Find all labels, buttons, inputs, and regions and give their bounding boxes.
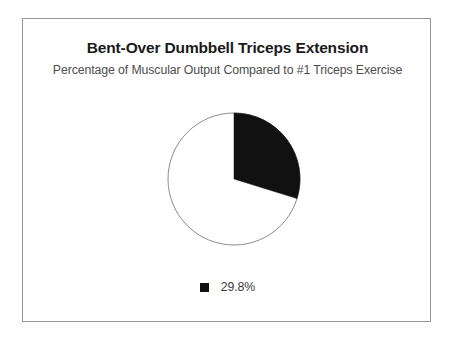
legend: 29.8% [23, 281, 432, 293]
plot-area: 29.8% [23, 19, 432, 323]
pie-svg [167, 112, 301, 246]
chart-frame: Bent-Over Dumbbell Triceps Extension Per… [22, 18, 431, 322]
legend-item: 29.8% [200, 281, 255, 293]
square-marker-icon [200, 283, 209, 292]
figure-root: Bent-Over Dumbbell Triceps Extension Per… [0, 0, 455, 340]
legend-item-label: 29.8% [221, 281, 255, 293]
pie-chart [167, 112, 301, 246]
